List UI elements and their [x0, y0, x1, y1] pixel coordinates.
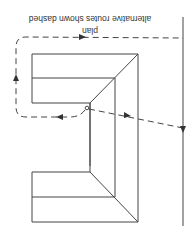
- main-route: [89, 109, 183, 128]
- building: [32, 54, 138, 222]
- start-point: [85, 106, 89, 110]
- arrow-boundary-end: [180, 126, 186, 133]
- plan-diagram: plan alternative routes shown dashed: [0, 0, 193, 238]
- alternative-route: [16, 37, 183, 117]
- caption-note: alternative routes shown dashed: [29, 14, 152, 24]
- caption-plan: plan: [82, 26, 98, 36]
- arrow-alt-up: [13, 74, 19, 81]
- arrow-alt-left: [56, 114, 63, 120]
